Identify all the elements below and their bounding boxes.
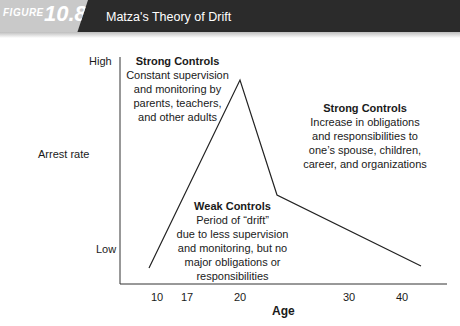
x-tick-10: 10 — [151, 290, 163, 304]
annotation-line: and monitoring, but no — [170, 241, 295, 255]
x-tick-30: 30 — [343, 290, 355, 304]
annotation-line: Increase in obligations — [280, 115, 450, 129]
annotation-line: and other adults — [120, 110, 235, 124]
y-axis-label: Arrest rate — [38, 147, 89, 161]
annotation-line: major obligations or — [170, 255, 295, 269]
annotation-line: and monitoring by — [120, 82, 235, 96]
annotation-early: Strong Controls Constant supervision and… — [120, 54, 235, 124]
x-axis-label: Age — [272, 304, 295, 318]
annotation-line: due to less supervision — [170, 227, 295, 241]
annotation-line: one’s spouse, children, — [280, 143, 450, 157]
annotation-drift: Weak Controls Period of “drift” due to l… — [170, 199, 295, 283]
annotation-line: Period of “drift” — [170, 213, 295, 227]
annotation-line: career, and organizations — [280, 157, 450, 171]
x-tick-20: 20 — [234, 290, 246, 304]
annotation-drift-heading: Weak Controls — [170, 199, 295, 213]
annotation-line: parents, teachers, — [120, 96, 235, 110]
annotation-line: responsibilities — [170, 269, 295, 283]
annotation-late: Strong Controls Increase in obligations … — [280, 101, 450, 171]
annotation-early-heading: Strong Controls — [120, 54, 235, 68]
annotation-line: and responsibilities to — [280, 129, 450, 143]
y-high-label: High — [89, 54, 112, 68]
annotation-line: Constant supervision — [120, 68, 235, 82]
x-tick-40: 40 — [396, 290, 408, 304]
y-low-label: Low — [96, 242, 116, 256]
x-tick-17: 17 — [181, 290, 193, 304]
annotation-late-heading: Strong Controls — [280, 101, 450, 115]
